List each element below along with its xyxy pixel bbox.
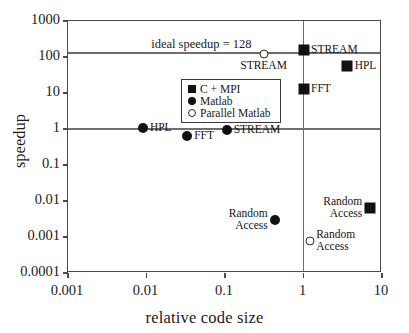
x-tick xyxy=(146,273,147,278)
plot-area: STREAMHPLFFTRandom AccessHPLFFTSTREAMRan… xyxy=(67,20,381,272)
y-tick xyxy=(63,164,68,165)
data-point-matlab-random-access xyxy=(270,215,280,225)
chart-figure: relative code size speedup 10001001010.1… xyxy=(0,0,409,333)
legend-label-c-mpi: C + MPI xyxy=(200,83,240,95)
x-tick-label: 1 xyxy=(263,283,343,298)
y-tick-label: 0.1 xyxy=(42,156,60,171)
data-point-matlab-stream xyxy=(222,125,232,135)
filled-circle-icon xyxy=(186,97,198,105)
x-tick xyxy=(67,273,68,278)
y-tick-label: 1 xyxy=(53,120,60,135)
x-tick xyxy=(381,273,382,278)
x-tick-label: 0.001 xyxy=(27,283,107,298)
point-label: Random Access xyxy=(316,229,355,252)
y-tick xyxy=(63,56,68,57)
legend-item-parallel-matlab: Parallel Matlab xyxy=(186,107,275,119)
point-label: FFT xyxy=(194,130,214,142)
point-label: STREAM xyxy=(311,44,358,56)
legend-item-matlab: Matlab xyxy=(186,95,275,107)
y-axis-title: speedup xyxy=(10,76,30,206)
point-label: HPL xyxy=(355,60,377,72)
x-axis-title: relative code size xyxy=(0,308,409,328)
y-tick-label: 0.001 xyxy=(27,228,60,243)
x-tick xyxy=(224,273,225,278)
filled-square-icon xyxy=(186,85,198,93)
legend-label-parallel-matlab: Parallel Matlab xyxy=(200,107,271,119)
data-point-c-mpi-random-access xyxy=(364,203,375,214)
data-point-parallel-matlab-stream xyxy=(259,49,268,58)
unity-codesize-line xyxy=(303,21,304,271)
data-point-matlab-hpl xyxy=(138,123,148,133)
y-tick-label: 0.0001 xyxy=(20,264,60,279)
point-label: STREAM xyxy=(234,124,281,136)
legend-item-c-mpi: C + MPI xyxy=(186,83,275,95)
y-tick-label: 0.01 xyxy=(35,192,60,207)
legend-label-matlab: Matlab xyxy=(200,95,233,107)
y-tick xyxy=(63,92,68,93)
y-tick xyxy=(63,236,68,237)
y-tick-label: 10 xyxy=(46,84,61,99)
ideal-speedup-annotation: ideal speedup = 128 xyxy=(148,38,254,51)
y-tick-label: 100 xyxy=(38,48,60,63)
point-label: HPL xyxy=(150,122,172,134)
x-tick xyxy=(303,273,304,278)
data-point-matlab-fft xyxy=(182,131,192,141)
y-tick xyxy=(63,128,68,129)
point-label: STREAM xyxy=(234,60,294,72)
point-label: FFT xyxy=(311,83,331,95)
chart-legend: C + MPI Matlab Parallel Matlab xyxy=(181,79,281,123)
point-label: Random Access xyxy=(208,208,268,231)
x-tick-label: 10 xyxy=(341,283,409,298)
x-tick-label: 0.1 xyxy=(184,283,264,298)
point-label: Random Access xyxy=(302,196,362,219)
y-tick-label: 1000 xyxy=(31,12,60,27)
data-point-c-mpi-stream xyxy=(298,44,309,55)
data-point-c-mpi-fft xyxy=(298,83,309,94)
data-point-c-mpi-hpl xyxy=(342,61,353,72)
data-point-parallel-matlab-random-access xyxy=(305,237,314,246)
y-tick xyxy=(63,200,68,201)
open-circle-icon xyxy=(186,109,198,117)
y-tick xyxy=(63,20,68,21)
x-tick-label: 0.01 xyxy=(106,283,186,298)
